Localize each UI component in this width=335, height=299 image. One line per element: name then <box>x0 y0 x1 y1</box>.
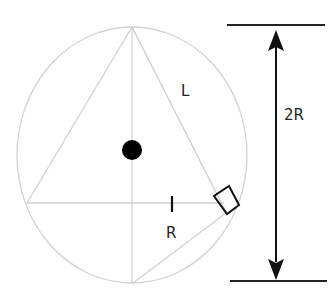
bottom-chord <box>133 213 226 283</box>
arrowhead-down-icon <box>268 259 284 280</box>
label-R: R <box>166 224 176 242</box>
center-dot <box>122 140 142 160</box>
label-L: L <box>181 82 190 100</box>
geometry-diagram: L R 2R <box>0 0 335 299</box>
label-2R: 2R <box>284 106 304 124</box>
left-side <box>27 27 132 203</box>
chord-L <box>132 27 226 212</box>
